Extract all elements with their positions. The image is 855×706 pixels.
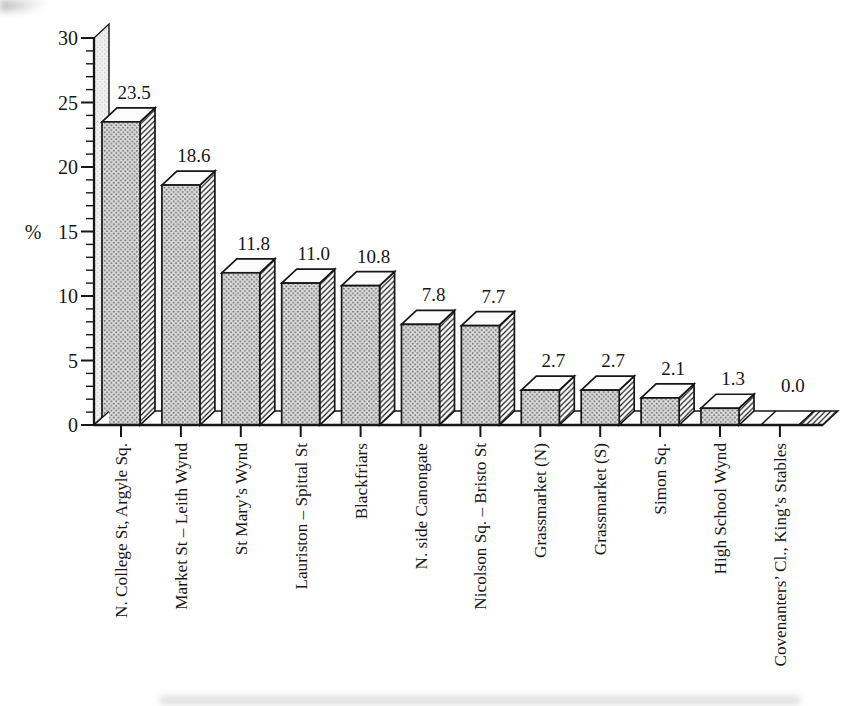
- bar-front: [102, 122, 140, 425]
- category-label: Market St – Leith Wynd: [172, 443, 191, 610]
- bar-front: [521, 390, 559, 425]
- value-label: 2.1: [661, 358, 685, 379]
- bar-chart-figure: 051015202530%23.518.611.811.010.87.87.72…: [0, 0, 855, 706]
- y-axis-title: %: [25, 221, 42, 243]
- y-tick-label: 0: [68, 414, 78, 436]
- category-label: Grassmarket (S): [591, 443, 610, 555]
- value-label: 7.8: [422, 284, 446, 305]
- bar-front: [342, 286, 380, 425]
- bar-side: [320, 269, 335, 425]
- value-label: 0.0: [781, 375, 805, 396]
- bar-front: [282, 283, 320, 425]
- bar-front: [581, 390, 619, 425]
- bar-front: [701, 408, 739, 425]
- category-label: N. College St, Argyle Sq.: [112, 443, 131, 618]
- bar-front: [162, 185, 200, 425]
- y-tick-label: 30: [58, 27, 78, 49]
- value-label: 11.8: [238, 233, 271, 254]
- y-tick-label: 15: [58, 221, 78, 243]
- category-label: N. side Canongate: [412, 443, 431, 570]
- y-tick-label: 25: [58, 92, 78, 114]
- value-label: 18.6: [177, 145, 210, 166]
- bar-front: [461, 326, 499, 425]
- y-tick-label: 20: [58, 156, 78, 178]
- y-tick-label: 10: [58, 285, 78, 307]
- category-label: Covenanters’ Cl., King’s Stables: [771, 443, 790, 667]
- bar-side: [260, 259, 275, 425]
- category-label: Simon Sq.: [651, 443, 670, 515]
- value-label: 2.7: [601, 350, 625, 371]
- value-label: 23.5: [117, 82, 150, 103]
- bar-side: [380, 272, 395, 425]
- category-label: Lauriston – Spittal St: [292, 443, 311, 590]
- category-label: Nicolson Sq. – Bristo St: [471, 443, 490, 610]
- bar-side: [499, 312, 514, 425]
- category-label: High School Wynd: [711, 443, 730, 575]
- bar-side: [440, 310, 455, 425]
- category-label: St Mary’s Wynd: [232, 443, 251, 556]
- bar-side: [200, 171, 215, 425]
- value-label: 10.8: [357, 246, 390, 267]
- category-label: Blackfriars: [352, 443, 371, 520]
- bar-front: [641, 398, 679, 425]
- value-label: 7.7: [482, 286, 506, 307]
- y-tick-label: 5: [68, 350, 78, 372]
- value-label: 11.0: [297, 243, 330, 264]
- value-label: 2.7: [541, 350, 565, 371]
- bar-chart-canvas: 051015202530%23.518.611.811.010.87.87.72…: [0, 0, 855, 706]
- bar-side: [140, 108, 155, 425]
- category-label: Grassmarket (N): [531, 443, 550, 558]
- bar-front: [222, 273, 260, 425]
- value-label: 1.3: [721, 368, 745, 389]
- bar-front: [402, 324, 440, 425]
